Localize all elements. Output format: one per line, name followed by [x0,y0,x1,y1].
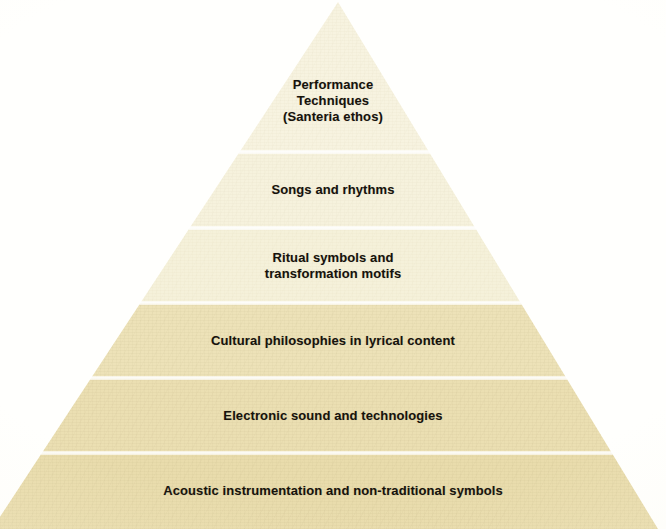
pyramid-tier-label-3: Ritual symbols and transformation motifs [265,250,401,282]
pyramid-tier-label-2: Songs and rhythms [271,182,394,198]
pyramid-tier-4: Cultural philosophies in lyrical content [0,303,666,378]
pyramid-tier-label-6: Acoustic instrumentation and non-traditi… [163,483,503,499]
pyramid-tier-label-4: Cultural philosophies in lyrical content [211,333,455,349]
pyramid-diagram: Performance Techniques (Santeria ethos)S… [0,0,666,529]
pyramid-tier-label-5: Electronic sound and technologies [223,408,442,424]
pyramid-tier-5: Electronic sound and technologies [0,378,666,453]
pyramid-tier-3: Ritual symbols and transformation motifs [0,228,666,303]
pyramid-tier-2: Songs and rhythms [0,152,666,228]
pyramid-tier-1: Performance Techniques (Santeria ethos) [0,2,666,152]
pyramid-tier-6: Acoustic instrumentation and non-traditi… [0,453,666,529]
pyramid-tier-label-1: Performance Techniques (Santeria ethos) [283,77,383,125]
